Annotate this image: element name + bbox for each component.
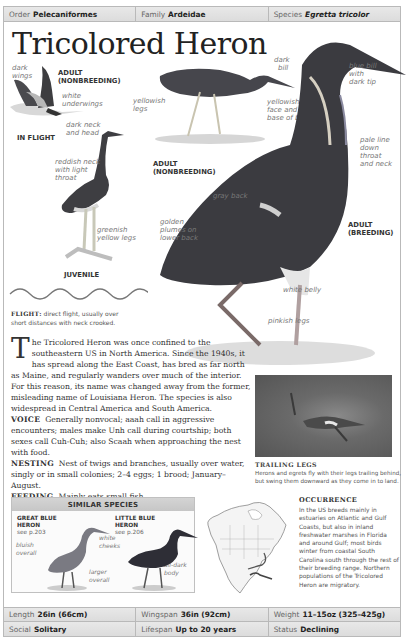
label-blue-bill-2: with xyxy=(349,70,364,78)
description-body: The Tricolored Heron was once confined t… xyxy=(11,337,251,502)
caption-adult-breeding-2: (BREEDING) xyxy=(348,229,393,237)
length-value: 26in (66cm) xyxy=(38,610,88,619)
photo-caption-title: TRAILING LEGS xyxy=(255,461,317,468)
family-cell: Family Ardeidae xyxy=(136,7,268,21)
similar-species-box: SIMILAR SPECIES GREAT BLUE HERON see p.2… xyxy=(11,497,195,593)
label-blue-bill-3: dark tip xyxy=(349,78,376,86)
flying-heron-photo-icon xyxy=(255,375,392,457)
voice-text: Generally nonvocal; aaah call in aggress… xyxy=(11,415,241,457)
great-blue-heron-name-1: GREAT BLUE xyxy=(17,515,57,522)
label-reddish-neck-2: with light xyxy=(55,166,88,174)
social-label: Social xyxy=(9,625,31,634)
social-value: Solitary xyxy=(34,625,66,634)
label-pale-line-1: pale line xyxy=(360,136,390,144)
social-cell: Social Solitary xyxy=(4,622,136,636)
photo-caption: Herons and egrets fly with their legs tr… xyxy=(255,469,403,485)
stats-row-2: Social Solitary Lifespan Up to 20 years … xyxy=(3,621,401,637)
label-reddish-neck-3: throat xyxy=(55,174,76,182)
label-pale-line-3: throat xyxy=(360,152,381,160)
occurrence-text: In the US breeds mainly in estuaries on … xyxy=(299,506,399,589)
label-white-belly: white belly xyxy=(283,286,321,294)
occurrence-title: OCCURRENCE xyxy=(299,496,399,504)
label-yellowish-legs-2: legs xyxy=(133,105,147,113)
little-blue-heron-name-1: LITTLE BLUE xyxy=(115,515,155,522)
species-cell: Species Egretta tricolor xyxy=(269,7,400,21)
lifespan-value: Up to 20 years xyxy=(175,625,236,634)
label-bluish-2: overall xyxy=(16,549,36,557)
stats-row-1: Length 26in (66cm) Wingspan 36in (92cm) … xyxy=(3,607,401,622)
dropcap: T xyxy=(11,338,30,360)
caption-nonbreeding: (NONBREEDING) xyxy=(58,77,121,85)
wingspan-label: Wingspan xyxy=(141,610,177,619)
wingspan-cell: Wingspan 36in (92cm) xyxy=(136,608,268,621)
occurrence-section: OCCURRENCE In the US breeds mainly in es… xyxy=(299,496,399,589)
label-pale-line-4: and neck xyxy=(360,160,392,168)
nesting-label: NESTING xyxy=(11,459,54,468)
label-greenish-legs-2: yellow legs xyxy=(97,234,136,242)
flight-label: FLIGHT: xyxy=(11,310,42,317)
label-pale-line-2: down xyxy=(360,144,379,152)
status-cell: Status Declining xyxy=(269,622,400,636)
trailing-legs-photo xyxy=(255,375,392,457)
great-blue-heron-illustration xyxy=(42,522,112,592)
status-value: Declining xyxy=(300,625,339,634)
label-greenish-legs-1: greenish xyxy=(97,226,127,234)
caption-juvenile: JUVENILE xyxy=(64,271,99,279)
label-gray-back: gray back xyxy=(213,192,248,200)
range-map xyxy=(200,495,300,595)
great-blue-heron-name-2: HERON xyxy=(17,522,40,529)
flight-description: FLIGHT: direct flight, usually over shor… xyxy=(11,310,131,327)
similar-species-heading: SIMILAR SPECIES xyxy=(12,498,194,511)
label-white-underwings-2: underwings xyxy=(62,100,103,108)
weight-label: Weight xyxy=(274,610,300,619)
species-value: Egretta tricolor xyxy=(305,10,369,19)
lifespan-label: Lifespan xyxy=(141,625,172,634)
taxonomy-bar: Order Pelecaniformes Family Ardeidae Spe… xyxy=(3,6,401,22)
label-golden-plumes-1: golden xyxy=(160,218,184,226)
family-label: Family xyxy=(141,10,165,19)
description-text: he Tricolored Heron was once confined to… xyxy=(11,338,250,413)
wingspan-value: 36in (92cm) xyxy=(181,610,231,619)
weight-cell: Weight 11–15oz (325–425g) xyxy=(269,608,400,621)
label-golden-plumes-2: plumes on xyxy=(160,226,197,234)
label-bluish-1: bluish xyxy=(16,541,34,549)
species-label: Species xyxy=(274,10,302,19)
weight-value: 11–15oz (325–425g) xyxy=(302,610,385,619)
length-label: Length xyxy=(9,610,35,619)
caption-adult-breeding-1: ADULT xyxy=(348,221,372,229)
status-label: Status xyxy=(274,625,298,634)
label-reddish-neck-1: reddish neck xyxy=(55,158,100,166)
family-value: Ardeidae xyxy=(168,10,206,19)
order-value: Pelecaniformes xyxy=(33,10,97,19)
lifespan-cell: Lifespan Up to 20 years xyxy=(136,622,268,636)
order-cell: Order Pelecaniformes xyxy=(4,7,136,21)
label-white-underwings-1: white xyxy=(62,92,81,100)
label-pinkish-legs: pinkish legs xyxy=(268,317,309,325)
voice-label: VOICE xyxy=(11,415,40,424)
label-blue-bill-1: blue bill xyxy=(349,62,377,70)
label-dark-wings-2: wings xyxy=(12,72,32,80)
caption-adult: ADULT xyxy=(58,69,82,77)
flight-pattern-wave-icon xyxy=(8,284,148,304)
label-golden-plumes-3: lower back xyxy=(160,234,198,242)
length-cell: Length 26in (66cm) xyxy=(4,608,136,621)
order-label: Order xyxy=(9,10,30,19)
label-dark-wings-1: dark xyxy=(12,64,28,72)
little-blue-heron-illustration xyxy=(124,524,199,592)
